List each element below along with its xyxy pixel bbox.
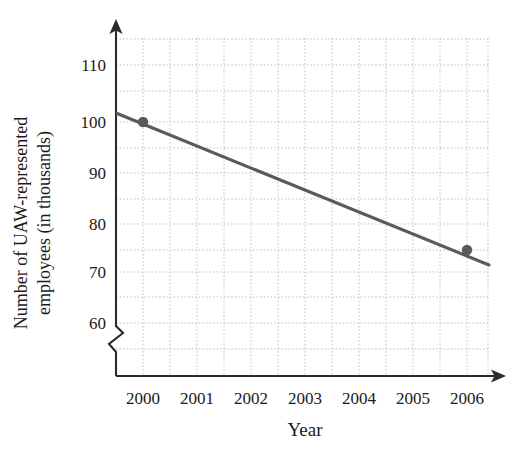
x-tick-label-2005: 2005 [396,390,430,407]
x-tick-label-2003: 2003 [288,390,322,407]
data-point-2006 [462,245,472,255]
x-tick-label-2001: 2001 [180,390,214,407]
x-tick-label-2006: 2006 [450,390,484,407]
horizontal-gridlines [116,39,490,349]
y-tick-label-60: 60 [66,315,106,332]
y-axis [109,27,123,376]
y-tick-label-110: 110 [66,57,106,74]
x-tick-label-2004: 2004 [342,390,376,407]
y-tick-label-90: 90 [66,165,106,182]
vertical-gridlines [143,38,488,376]
x-tick-label-2000: 2000 [126,390,160,407]
x-axis-title: Year [287,419,322,441]
x-tick-label-2002: 2002 [234,390,268,407]
y-tick-label-80: 80 [66,216,106,233]
data-series-line [116,113,489,265]
y-tick-label-70: 70 [66,264,106,281]
y-axis-title-line2: employees (in thousands) [33,131,56,315]
y-axis-title-line1: Number of UAW-represented [10,117,33,329]
data-point-2000 [138,117,148,127]
y-tick-label-100: 100 [66,114,106,131]
y-axis-title: Number of UAW-represented employees (in … [4,53,62,393]
line-chart: 110 100 90 80 70 60 2000 2001 2002 2003 … [0,0,531,456]
